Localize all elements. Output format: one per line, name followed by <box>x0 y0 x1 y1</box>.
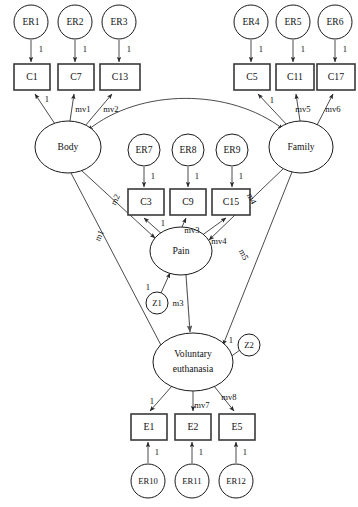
error-term-er10: ER10 <box>131 464 165 498</box>
indicator-c17: C17 <box>317 64 355 90</box>
edge-label-body-pain: m2 <box>108 192 122 206</box>
edge-label-body-c1: 1 <box>45 94 49 104</box>
error-term-er12: ER12 <box>219 464 253 498</box>
edge-label-er8-c9: 1 <box>195 171 199 181</box>
error-term-er7-label: ER7 <box>136 145 153 155</box>
disturbance-z1-label: Z1 <box>152 298 162 308</box>
edge-label-er2-c7: 1 <box>83 44 87 54</box>
indicator-c5: C5 <box>234 64 270 90</box>
edge-label-body-c13: mv2 <box>103 104 118 114</box>
error-term-er4: ER4 <box>234 5 268 39</box>
edge-label-family-c11: mv5 <box>295 104 310 114</box>
indicator-c9-label: C9 <box>182 196 194 207</box>
error-term-er3: ER3 <box>102 5 136 39</box>
edge-label-family-c17: mv6 <box>325 104 341 114</box>
error-term-er2: ER2 <box>58 5 92 39</box>
indicator-c7-label: C7 <box>70 71 82 82</box>
indicator-c1: C1 <box>14 64 50 90</box>
indicator-c13-label: C13 <box>112 71 128 82</box>
edge-label-z1-pain: 1 <box>146 282 150 292</box>
edge-label-er5-c11: 1 <box>301 44 305 54</box>
latent-variable-family-label: Family <box>287 141 314 152</box>
error-term-er12-label: ER12 <box>226 476 246 486</box>
disturbance-z2: Z2 <box>238 334 260 356</box>
error-term-er1-label: ER1 <box>23 17 40 27</box>
edge-label-pain-ve: m3 <box>173 298 184 308</box>
latent-variable-pain: Pain <box>150 227 212 275</box>
edge-label-z2-ve: 1 <box>229 335 233 345</box>
edge-label-er12-e5: 1 <box>243 447 247 457</box>
error-term-er9-label: ER9 <box>224 145 241 155</box>
diagram-canvas: C1 C7 C13 C5 C11 C17 C3 C9 <box>0 0 358 507</box>
edge-label-er1-c1: 1 <box>39 44 43 54</box>
edge-label-family-c5: 1 <box>270 95 274 105</box>
latent-variable-body-label: Body <box>58 141 79 152</box>
error-term-er11: ER11 <box>175 464 209 498</box>
indicator-e2-label: E2 <box>188 421 199 432</box>
error-term-er6: ER6 <box>318 5 352 39</box>
edge-label-er4-c5: 1 <box>259 44 263 54</box>
error-term-er6-label: ER6 <box>327 17 344 27</box>
edge-label-er3-c13: 1 <box>127 44 131 54</box>
latent-variable-voluntary-euthanasia-label-line1: Voluntary <box>174 348 212 359</box>
edge-label-ve-e2: mv7 <box>194 400 210 410</box>
edge-pain-ve <box>186 275 190 332</box>
latent-variable-body: Body <box>35 121 101 173</box>
edge-z1-pain <box>161 273 170 293</box>
disturbance-z2-label: Z2 <box>244 340 254 350</box>
indicator-e1: E1 <box>131 414 167 440</box>
indicator-c7: C7 <box>58 64 94 90</box>
error-term-er5-label: ER5 <box>285 17 302 27</box>
indicator-c11-label: C11 <box>287 71 303 82</box>
latent-variable-family: Family <box>269 121 333 173</box>
edge-label-er6-c17: 1 <box>343 44 347 54</box>
error-term-er4-label: ER4 <box>243 17 260 27</box>
edge-label-family-ve: m5 <box>237 247 251 261</box>
indicator-e5: E5 <box>219 414 255 440</box>
error-term-er8-label: ER8 <box>180 145 197 155</box>
indicator-c15-label: C15 <box>223 196 239 207</box>
edge-label-pain-c9: mv3 <box>184 225 199 235</box>
edge-label-er10-e1: 1 <box>155 447 159 457</box>
edge-label-pain-c15: mv4 <box>211 236 227 246</box>
indicator-c5-label: C5 <box>246 71 258 82</box>
indicator-c17-label: C17 <box>328 71 344 82</box>
indicator-e1-label: E1 <box>144 421 155 432</box>
sem-path-diagram: C1 C7 C13 C5 C11 C17 C3 C9 <box>0 0 358 507</box>
indicator-c13: C13 <box>100 64 140 90</box>
edge-label-pain-c3: 1 <box>161 218 165 228</box>
disturbance-z1: Z1 <box>146 292 168 314</box>
error-term-er9: ER9 <box>216 134 248 166</box>
latent-variable-pain-label: Pain <box>172 245 189 256</box>
latent-variable-voluntary-euthanasia: Voluntary euthanasia <box>153 333 233 391</box>
edge-label-ve-e5: mv8 <box>221 392 236 402</box>
indicator-e5-label: E5 <box>232 421 243 432</box>
indicator-c9: C9 <box>170 189 206 215</box>
error-term-er11-label: ER11 <box>182 476 201 486</box>
indicator-c15: C15 <box>212 189 250 215</box>
indicator-c1-label: C1 <box>26 71 38 82</box>
indicator-e2: E2 <box>175 414 211 440</box>
edge-label-er7-c3: 1 <box>151 171 155 181</box>
edge-label-body-c7: mv1 <box>75 104 90 114</box>
error-term-er10-label: ER10 <box>138 476 158 486</box>
indicator-c11: C11 <box>276 64 314 90</box>
error-term-er3-label: ER3 <box>111 17 128 27</box>
edge-label-er9-c15: 1 <box>239 171 243 181</box>
edge-body-c7 <box>70 94 74 121</box>
error-term-er2-label: ER2 <box>67 17 84 27</box>
error-term-er1: ER1 <box>14 5 48 39</box>
error-term-er5: ER5 <box>276 5 310 39</box>
indicator-c3: C3 <box>128 189 164 215</box>
edge-label-body-ve: m1 <box>92 228 106 242</box>
latent-variable-voluntary-euthanasia-label-line2: euthanasia <box>173 363 214 374</box>
edge-label-er11-e2: 1 <box>199 447 203 457</box>
edge-label-ve-e1: 1 <box>150 396 154 406</box>
error-term-er8: ER8 <box>172 134 204 166</box>
indicator-c3-label: C3 <box>140 196 152 207</box>
error-term-er7: ER7 <box>128 134 160 166</box>
